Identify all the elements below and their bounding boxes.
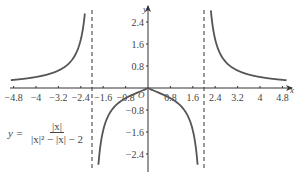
y-axis-label: y (142, 4, 147, 14)
formula-denominator: |x|² − |x| − 2 (29, 133, 85, 146)
y-tick-label: 1.6 (132, 39, 145, 50)
x-axis-label: x (289, 85, 294, 95)
formula-lhs: y = (8, 127, 23, 139)
y-tick-label: −1.6 (126, 127, 144, 138)
x-tick-label: 1.6 (187, 92, 200, 103)
x-tick-label: 3.2 (231, 92, 244, 103)
function-graph: xyO −4.8−4−3.2−2.4−1.6−0.80.81.62.43.244… (0, 0, 297, 173)
x-tick-label: 4.8 (276, 92, 289, 103)
y-tick-label: 2.4 (132, 17, 145, 28)
x-tick-label: −4.8 (5, 92, 23, 103)
y-tick-label: 0.8 (132, 61, 145, 72)
x-tick-label: 4 (258, 92, 263, 103)
formula-fraction: |x| |x|² − |x| − 2 (29, 120, 85, 146)
y-tick-label: −2.4 (126, 149, 144, 160)
axes: xyO (10, 4, 294, 172)
x-tick-label: −4 (31, 92, 42, 103)
x-tick-label: 2.4 (209, 92, 222, 103)
x-tick-label: −1.6 (94, 92, 112, 103)
x-tick-label: −2.4 (72, 92, 90, 103)
function-curve-branch (11, 13, 85, 80)
y-tick-label: −0.8 (126, 105, 144, 116)
formula-numerator: |x| (50, 120, 64, 133)
function-formula: y = |x| |x|² − |x| − 2 (8, 120, 85, 146)
x-tick-label: −3.2 (49, 92, 67, 103)
function-curve-branch (211, 10, 287, 80)
